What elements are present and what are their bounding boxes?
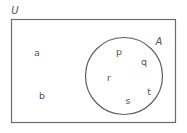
element-t: t <box>147 87 151 97</box>
venn-diagram: U A a b p q r s t <box>0 0 187 133</box>
element-s: s <box>126 96 131 106</box>
element-a: a <box>34 48 40 58</box>
set-a-label: A <box>156 37 163 47</box>
element-b: b <box>39 91 45 101</box>
element-q: q <box>141 57 147 67</box>
element-p: p <box>116 47 122 57</box>
universe-rectangle <box>12 20 176 123</box>
element-r: r <box>107 73 111 83</box>
venn-diagram-canvas <box>0 0 187 133</box>
universe-label: U <box>11 6 18 16</box>
